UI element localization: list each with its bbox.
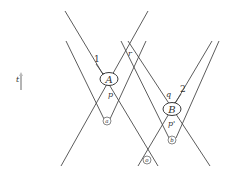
label-2: q [166, 90, 171, 99]
time-axis: t [16, 72, 23, 90]
event-b-label: B [167, 104, 175, 115]
label-5: r [128, 49, 133, 58]
worldlines [61, 11, 219, 166]
label-4: p' [168, 119, 175, 128]
arrowhead-icon [19, 72, 23, 76]
labels: 1pq2p'r [94, 49, 186, 128]
vertex-b-label: b [170, 137, 174, 143]
event-a-label: A [104, 74, 112, 85]
time-axis-label: t [16, 75, 20, 84]
pointer-1 [96, 64, 103, 74]
worldline-left-outer-up [61, 11, 148, 166]
vertices: abo [103, 117, 176, 164]
cone-a-left [66, 41, 104, 119]
label-0: 1 [94, 54, 100, 64]
vertex-a-label: a [105, 118, 108, 124]
pointer-2 [175, 94, 181, 103]
spacetime-diagram: t AB abo 1pq2p'r [0, 0, 229, 172]
label-1: p [108, 90, 113, 99]
label-3: 2 [180, 84, 186, 94]
